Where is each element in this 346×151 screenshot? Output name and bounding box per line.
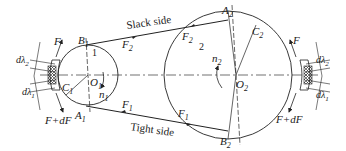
svg-text:dλ1: dλ1 xyxy=(22,86,35,100)
right-belt-element xyxy=(289,40,330,112)
svg-text:F2: F2 xyxy=(181,30,193,45)
svg-text:O2: O2 xyxy=(236,78,248,93)
svg-text:C2: C2 xyxy=(252,25,263,40)
belt-drive-diagram: B1 1 O1 n1 C1 A1 Slack side Tight side F… xyxy=(0,0,346,151)
svg-text:dλ1: dλ1 xyxy=(316,89,329,103)
svg-text:dλ2: dλ2 xyxy=(316,54,329,68)
svg-text:B1: B1 xyxy=(78,34,89,49)
svg-text:F: F xyxy=(53,35,61,47)
svg-text:F+dF: F+dF xyxy=(275,113,303,125)
slack-side-label: Slack side xyxy=(126,13,172,31)
svg-text:F1: F1 xyxy=(121,98,133,113)
svg-text:n2: n2 xyxy=(212,52,222,67)
left-belt-element xyxy=(30,40,63,112)
svg-text:B2: B2 xyxy=(220,135,231,150)
pulley-1-label: 1 xyxy=(92,47,97,58)
svg-text:F+dF: F+dF xyxy=(44,114,72,126)
svg-text:F2: F2 xyxy=(121,38,133,53)
svg-text:A1: A1 xyxy=(74,109,86,124)
tight-side-label: Tight side xyxy=(130,120,175,138)
svg-text:dλ2: dλ2 xyxy=(16,54,29,68)
svg-text:F: F xyxy=(292,34,300,46)
pulley-2-label: 2 xyxy=(199,41,204,52)
svg-text:A2: A2 xyxy=(221,4,233,19)
svg-text:n1: n1 xyxy=(99,88,109,103)
